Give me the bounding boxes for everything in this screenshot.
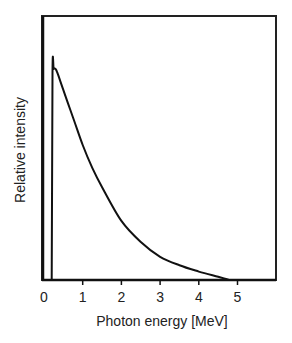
spectrum-curve	[52, 57, 230, 280]
chart: 012345 Photon energy [MeV] Relative inte…	[0, 0, 292, 343]
x-tick-label: 1	[79, 289, 87, 305]
x-tick-label: 5	[234, 289, 242, 305]
x-tick-label: 3	[156, 289, 164, 305]
x-tick-label: 2	[118, 289, 126, 305]
x-axis-label: Photon energy [MeV]	[96, 313, 228, 329]
y-axis-label: Relative intensity	[12, 97, 28, 203]
x-tick-labels: 012345	[40, 289, 242, 305]
x-tick-label: 4	[195, 289, 203, 305]
x-tick-label: 0	[40, 289, 48, 305]
plot-frame	[42, 16, 276, 280]
